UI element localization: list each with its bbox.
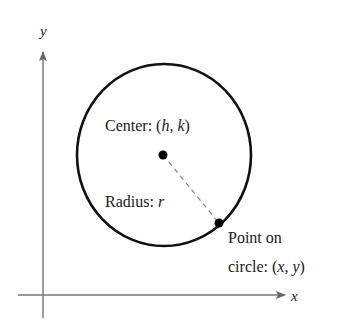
point-label-line1: Point on <box>228 229 282 246</box>
y-axis-label: y <box>38 23 47 39</box>
center-point <box>159 151 168 160</box>
x-axis-label: x <box>290 288 298 304</box>
circle-point <box>215 219 224 228</box>
circle-diagram: y x Center: (h, k) Radius: r Point on ci… <box>0 0 351 336</box>
point-label-line2: circle: (x, y) <box>228 258 305 276</box>
center-label: Center: (h, k) <box>105 117 190 135</box>
radius-label: Radius: r <box>105 193 165 210</box>
radius-line <box>163 155 219 223</box>
